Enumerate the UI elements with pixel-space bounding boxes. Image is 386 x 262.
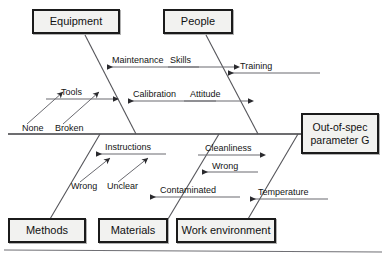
bottom-rule [4,250,382,252]
subcause-arrow-wrong-instructions [80,158,110,182]
cause-label-temperature: Temperature [258,188,309,197]
category-label-equipment: Equipment [48,15,105,27]
cause-label-skills: Skills [170,56,191,65]
category-label-work-environment: Work environment [179,224,272,236]
effect-box-out-of-spec[interactable]: Out-of-spec parameter G [301,113,379,154]
rib-work-environment [248,134,298,219]
cause-label-contaminated: Contaminated [160,186,216,195]
rib-methods [50,134,100,219]
category-label-methods: Methods [24,224,70,236]
subcause-label-wrong-instructions: Wrong [71,182,97,191]
fishbone-diagram: Equipment People Methods Materials Work … [0,0,386,262]
cause-label-wrong-material: Wrong [212,162,238,171]
category-box-methods[interactable]: Methods [8,218,86,243]
subcause-label-unclear: Unclear [107,182,138,191]
effect-label-line1: Out-of-spec [311,121,370,133]
rib-people [206,35,258,134]
subcause-arrow-unclear [118,158,148,182]
category-label-people: People [179,15,217,27]
subcause-label-broken: Broken [55,124,84,133]
category-box-equipment[interactable]: Equipment [32,9,120,34]
cause-label-instructions: Instructions [105,143,151,152]
cause-label-attitude: Attitude [190,90,221,99]
category-box-people[interactable]: People [163,9,233,34]
category-box-materials[interactable]: Materials [98,218,168,243]
category-box-work-environment[interactable]: Work environment [176,218,276,243]
effect-label-line2: parameter G [309,134,372,146]
cause-label-cleanliness: Cleanliness [205,144,252,153]
rib-equipment [85,35,136,134]
cause-label-calibration: Calibration [133,90,176,99]
cause-label-maintenance: Maintenance [112,56,164,65]
subcause-label-none: None [22,124,44,133]
category-label-materials: Materials [109,224,158,236]
subcause-arrow-none [27,92,63,124]
cause-label-tools: Tools [61,88,82,97]
cause-label-training: Training [240,62,272,71]
